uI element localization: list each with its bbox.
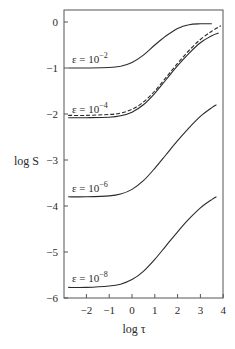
chart: 0−1−2−3−4−5−6 −2−101234 ε = 10−2ε = 10−4… xyxy=(0,0,235,349)
x-tick-label: 0 xyxy=(129,304,135,316)
x-tick-label: −1 xyxy=(103,304,115,316)
y-tick-label: 0 xyxy=(53,16,59,28)
x-tick-label: 1 xyxy=(152,304,158,316)
curve-label: ε = 10−2 xyxy=(72,51,108,65)
y-tick-label: −1 xyxy=(46,62,58,74)
curve-label: ε = 10−6 xyxy=(72,180,108,194)
x-tick-label: 2 xyxy=(175,304,181,316)
y-tick-label: −5 xyxy=(46,246,58,258)
curve-label: ε = 10−8 xyxy=(72,270,108,284)
y-axis-label: log S xyxy=(14,154,39,168)
y-tick-label: −3 xyxy=(46,154,58,166)
x-tick-label: 3 xyxy=(198,304,204,316)
y-tick-label: −4 xyxy=(46,200,58,212)
x-axis-label: log τ xyxy=(122,322,145,336)
y-axis: 0−1−2−3−4−5−6 xyxy=(46,16,68,304)
y-tick-label: −2 xyxy=(46,108,58,120)
y-tick-label: −6 xyxy=(46,292,58,304)
x-tick-label: −2 xyxy=(81,304,93,316)
x-tick-label: 4 xyxy=(220,304,226,316)
x-axis: −2−101234 xyxy=(81,294,227,316)
curve-labels: ε = 10−2ε = 10−4ε = 10−6ε = 10−8 xyxy=(72,51,108,284)
curve-label: ε = 10−4 xyxy=(72,101,108,115)
